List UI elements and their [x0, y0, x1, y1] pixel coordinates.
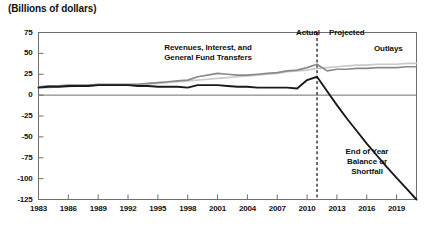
- projected-label: Projected: [329, 28, 365, 38]
- y-axis-tick-label: 0: [3, 90, 33, 99]
- y-axis-tick-label: -125: [3, 195, 33, 204]
- balance-series-label-line1: End of Year: [331, 147, 403, 157]
- y-axis-tick-label: 75: [3, 28, 33, 37]
- y-axis-tick-label: -75: [3, 153, 33, 162]
- revenues-series-label: Revenues, Interest, and General Fund Tra…: [148, 43, 268, 63]
- series-line-0: [39, 64, 417, 87]
- x-axis-tick-label: 2019: [380, 204, 414, 213]
- y-axis-tick-label: -25: [3, 111, 33, 120]
- y-axis-tick-label: -50: [3, 132, 33, 141]
- balance-series-label-line2: Balance or: [331, 157, 403, 167]
- y-axis-tick-label: 50: [3, 48, 33, 57]
- y-axis-tick-label: 25: [3, 69, 33, 78]
- outlays-series-label: Outlays: [374, 44, 403, 54]
- balance-series-label: End of Year Balance or Shortfall: [331, 147, 403, 177]
- revenues-series-label-line1: Revenues, Interest, and: [148, 43, 268, 53]
- actual-label: Actual: [296, 28, 320, 38]
- chart-container: (Billions of dollars) 7550250-25-50-75-1…: [0, 0, 432, 235]
- revenues-series-label-line2: General Fund Transfers: [148, 53, 268, 63]
- balance-series-label-line3: Shortfall: [331, 167, 403, 177]
- y-axis-tick-label: -100: [3, 174, 33, 183]
- chart-plot-area: [0, 0, 432, 235]
